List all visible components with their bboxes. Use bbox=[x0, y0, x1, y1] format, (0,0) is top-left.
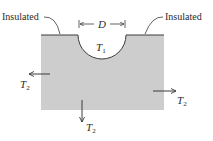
leader-line-left bbox=[44, 17, 60, 34]
insulated-label-left: Insulated bbox=[2, 12, 39, 22]
outer-temp-label-left: T2 bbox=[20, 79, 30, 92]
diameter-label: D bbox=[98, 19, 106, 30]
inner-temp-label: T1 bbox=[96, 42, 106, 55]
outer-temp-label-right: T2 bbox=[177, 95, 187, 108]
outer-temp-label-bottom: T2 bbox=[86, 122, 96, 135]
insulated-label-right: Insulated bbox=[165, 12, 202, 22]
leader-line-right bbox=[145, 17, 163, 34]
